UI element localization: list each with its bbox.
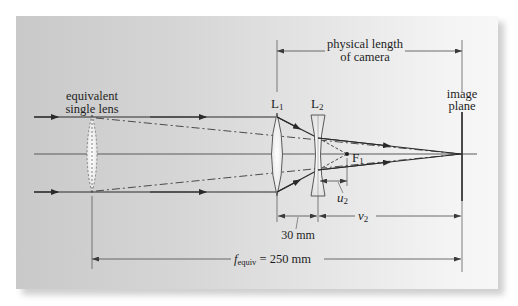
lens-L1-label: L1 xyxy=(271,96,283,112)
focal-point-F1 xyxy=(345,152,349,156)
physical-length-label-line2: of camera xyxy=(340,50,390,64)
figure: equivalent single lens physical length o… xyxy=(0,0,518,306)
physical-length-label-line1: physical length xyxy=(327,37,404,51)
separation-label: 30 mm xyxy=(281,228,315,242)
u2-label: u2 xyxy=(337,190,348,206)
focal-point-label: F1 xyxy=(352,150,364,166)
equivalent-lens xyxy=(87,115,97,193)
equivalent-lens-label-line1: equivalent xyxy=(66,89,119,103)
lens-L2 xyxy=(311,115,325,196)
lens-L1 xyxy=(272,113,283,196)
telephoto-lens-diagram: equivalent single lens physical length o… xyxy=(0,0,518,306)
f-equiv-label: fequiv = 250 mm xyxy=(234,252,311,267)
image-plane-label-line2: plane xyxy=(448,99,476,113)
v2-label: v2 xyxy=(358,208,368,224)
equivalent-lens-label-line2: single lens xyxy=(65,102,118,116)
lens-L2-label: L2 xyxy=(311,96,323,112)
